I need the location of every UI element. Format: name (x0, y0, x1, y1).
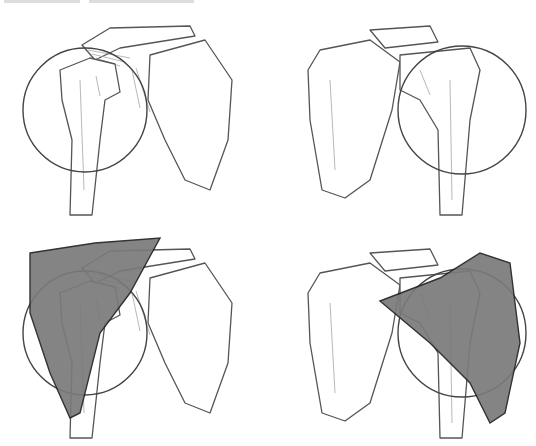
panel-front-view (23, 26, 232, 215)
panel-front-view-deltoid (23, 238, 232, 438)
panel-back-view (308, 26, 526, 215)
shoulder-illustration (0, 0, 536, 446)
panel-back-view-deltoid (308, 249, 526, 438)
